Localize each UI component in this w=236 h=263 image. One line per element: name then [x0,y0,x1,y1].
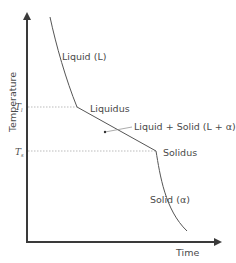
leader-dot [104,131,106,133]
mushy-zone-leader [105,127,132,132]
liquidus-label: Liquidus [90,103,130,114]
x-axis-label: Time [175,247,199,258]
solidus-label: Solidus [163,147,197,158]
mushy-zone-label: Liquid + Solid (L + α) [134,121,236,132]
cooling-curve-diagram: Temperature Time Tl Ts Liquid (L) Liquid… [0,0,236,263]
liquidus-temp-label: Tl [15,102,23,113]
liquid-label: Liquid (L) [62,51,106,62]
solidus-temp-label: Ts [15,147,24,158]
solid-label: Solid (α) [150,194,190,205]
